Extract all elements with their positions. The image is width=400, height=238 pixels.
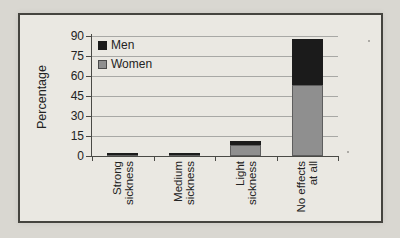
bar-segment-men [107,153,138,154]
y-tick-mark [86,136,92,137]
bar-segment-men [292,39,323,86]
legend-swatch-women-icon [98,60,107,69]
bar-segment-men [230,141,261,145]
y-tick-mark [86,56,92,57]
scan-noise-speck [347,151,349,153]
bar-segment-women [230,145,261,156]
y-tick-label: 30 [52,109,84,123]
y-axis-title: Percentage [29,55,55,139]
legend-item-women: Women [98,58,152,71]
y-tick-label: 60 [52,69,84,83]
x-category-label: Strongsickness [92,161,154,225]
x-category-label-text: Lightsickness [234,161,258,225]
scan-noise-speck [120,65,122,67]
x-category-label: Mediumsickness [153,161,215,225]
y-tick-label: 0 [52,149,84,163]
chart-frame: 0153045607590 StrongsicknessMediumsickne… [18,13,383,223]
y-tick-label: 75 [52,49,84,63]
x-category-label: No effectsat all [276,161,338,225]
y-tick-mark [86,36,92,37]
bar-segment-women [169,155,200,156]
bar-segment-women [292,85,323,156]
y-tick-mark [86,76,92,77]
bar-segment-men [169,153,200,154]
legend-label-women: Women [111,58,152,71]
x-category-label: Lightsickness [215,161,277,225]
scanned-page: 0153045607590 StrongsicknessMediumsickne… [0,0,400,238]
gridline [92,36,338,37]
y-tick-mark [86,96,92,97]
bar-segment-women [107,155,138,156]
legend-swatch-men-icon [98,41,107,50]
scan-noise-speck [368,40,370,42]
x-category-label-text: Strongsickness [111,161,135,225]
legend-item-men: Men [98,39,152,52]
y-axis-title-text: Percentage [35,55,49,139]
legend: Men Women [98,39,152,77]
y-tick-label: 45 [52,89,84,103]
x-category-label-text: Mediumsickness [172,161,196,225]
y-tick-label: 90 [52,29,84,43]
y-tick-mark [86,116,92,117]
x-category-label-text: No effectsat all [295,161,319,225]
y-tick-label: 15 [52,129,84,143]
legend-label-men: Men [111,39,134,52]
